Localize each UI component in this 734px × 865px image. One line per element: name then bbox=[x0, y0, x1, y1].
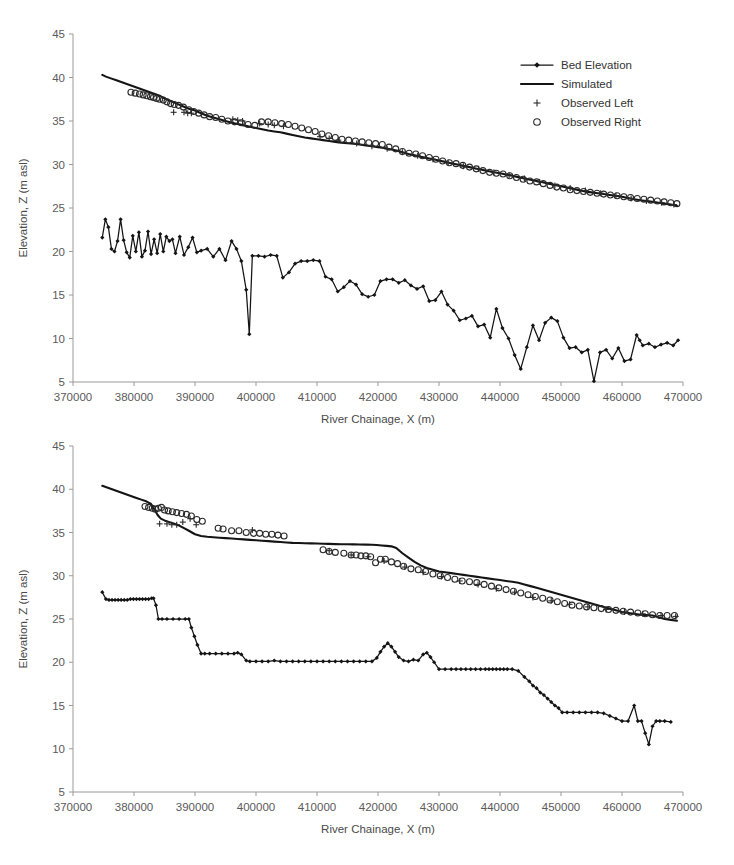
plot-area: 5101520253035404537000038000039000040000… bbox=[17, 440, 702, 835]
bed-elevation-marker bbox=[321, 659, 325, 663]
bed-elevation-marker bbox=[494, 667, 498, 671]
observed-right-marker bbox=[481, 581, 487, 587]
x-tick-label: 380000 bbox=[115, 801, 153, 813]
y-tick-label: 20 bbox=[52, 656, 65, 668]
x-tick-label: 460000 bbox=[603, 801, 641, 813]
observed-right-marker bbox=[671, 613, 677, 619]
observed-right-marker bbox=[467, 579, 473, 585]
bed-elevation-marker bbox=[658, 719, 662, 723]
x-tick-label: 450000 bbox=[542, 801, 580, 813]
bed-elevation-marker bbox=[577, 710, 581, 714]
y-tick-label: 35 bbox=[52, 527, 65, 539]
legend-item-label: Observed Right bbox=[561, 116, 642, 128]
observed-right-marker bbox=[305, 127, 311, 133]
bed-elevation-marker bbox=[275, 254, 279, 258]
observed-right-marker bbox=[332, 549, 338, 555]
y-axis-title: Elevation, Z (m asl) bbox=[17, 569, 29, 668]
bed-elevation-marker bbox=[643, 731, 647, 735]
bed-elevation-marker bbox=[632, 703, 636, 707]
bed-elevation-marker bbox=[195, 250, 199, 254]
series-line-simulated bbox=[102, 75, 677, 206]
x-tick-label: 460000 bbox=[603, 391, 641, 403]
bed-elevation-marker bbox=[177, 617, 181, 621]
x-tick-label: 440000 bbox=[481, 801, 519, 813]
bed-elevation-marker bbox=[469, 667, 473, 671]
observed-right-marker bbox=[339, 136, 345, 142]
y-tick-label: 30 bbox=[52, 570, 65, 582]
legend-item-label: Simulated bbox=[561, 78, 612, 90]
y-tick-label: 20 bbox=[52, 246, 65, 258]
observed-right-marker bbox=[510, 588, 516, 594]
y-axis-title-group: Elevation, Z (m asl) bbox=[17, 158, 29, 257]
x-tick-label: 470000 bbox=[664, 801, 702, 813]
bed-elevation-marker bbox=[269, 253, 273, 257]
x-tick-label: 370000 bbox=[54, 391, 92, 403]
bed-elevation-marker bbox=[614, 716, 618, 720]
bed-elevation-marker bbox=[596, 710, 600, 714]
bed-elevation-marker bbox=[494, 307, 498, 311]
observed-right-marker bbox=[664, 613, 670, 619]
bed-elevation-marker bbox=[345, 659, 349, 663]
y-tick-label: 15 bbox=[52, 700, 65, 712]
observed-right-marker bbox=[430, 571, 436, 577]
y-axis-title-group: Elevation, Z (m asl) bbox=[17, 569, 29, 668]
bed-elevation-marker bbox=[189, 626, 193, 630]
x-axis-title: River Chainage, X (m) bbox=[321, 413, 435, 425]
bed-elevation-marker bbox=[106, 225, 110, 229]
bed-elevation-marker bbox=[278, 659, 282, 663]
bed-elevation-marker bbox=[146, 229, 150, 233]
observed-right-marker bbox=[401, 563, 407, 569]
bed-elevation-marker bbox=[134, 249, 138, 253]
bed-elevation-marker bbox=[502, 667, 506, 671]
bed-elevation-marker bbox=[427, 299, 431, 303]
bed-elevation-marker bbox=[454, 667, 458, 671]
bed-elevation-marker bbox=[137, 230, 141, 234]
bed-elevation-marker bbox=[214, 652, 218, 656]
bed-elevation-marker bbox=[199, 652, 203, 656]
bed-elevation-marker bbox=[192, 634, 196, 638]
x-tick-label: 410000 bbox=[298, 801, 336, 813]
observed-right-marker bbox=[341, 550, 347, 556]
bed-elevation-marker bbox=[406, 659, 410, 663]
bed-elevation-marker bbox=[443, 667, 447, 671]
bed-elevation-marker bbox=[378, 279, 382, 283]
bed-elevation-marker bbox=[299, 259, 303, 263]
bed-elevation-marker bbox=[118, 217, 122, 221]
bed-elevation-marker bbox=[115, 239, 119, 243]
bed-elevation-marker bbox=[100, 235, 104, 239]
bed-elevation-marker bbox=[309, 659, 313, 663]
bed-elevation-marker bbox=[183, 617, 187, 621]
y-tick-label: 30 bbox=[52, 159, 65, 171]
observed-right-marker bbox=[591, 605, 597, 611]
bed-elevation-marker bbox=[636, 719, 640, 723]
bed-elevation-marker bbox=[103, 217, 107, 221]
observed-right-marker bbox=[437, 573, 443, 579]
bed-elevation-marker bbox=[487, 667, 491, 671]
bed-elevation-marker bbox=[628, 357, 632, 361]
bed-elevation-marker bbox=[510, 667, 514, 671]
bed-elevation-marker bbox=[478, 667, 482, 671]
bed-elevation-marker bbox=[239, 259, 243, 263]
bed-elevation-marker bbox=[317, 259, 321, 263]
bed-elevation-marker bbox=[195, 643, 199, 647]
x-tick-label: 450000 bbox=[542, 391, 580, 403]
bed-elevation-marker bbox=[220, 652, 224, 656]
observed-right-marker bbox=[547, 597, 553, 603]
x-tick-label: 410000 bbox=[298, 391, 336, 403]
bed-elevation-marker bbox=[519, 367, 523, 371]
bed-elevation-marker bbox=[272, 658, 276, 662]
bed-elevation-marker bbox=[464, 667, 468, 671]
bed-elevation-marker bbox=[248, 659, 252, 663]
observed-right-marker bbox=[445, 574, 451, 580]
chart-canvas-bottom: 5101520253035404537000038000039000040000… bbox=[0, 430, 734, 865]
x-tick-label: 430000 bbox=[420, 391, 458, 403]
bed-elevation-marker bbox=[482, 322, 486, 326]
x-tick-label: 390000 bbox=[176, 801, 214, 813]
bed-elevation-marker bbox=[571, 710, 575, 714]
bed-elevation-marker bbox=[122, 238, 126, 242]
bed-elevation-marker bbox=[161, 249, 165, 253]
bed-elevation-marker bbox=[384, 277, 388, 281]
observed-right-marker bbox=[320, 547, 326, 553]
x-tick-label: 470000 bbox=[664, 391, 702, 403]
legend-item-label: Bed Elevation bbox=[561, 59, 632, 71]
